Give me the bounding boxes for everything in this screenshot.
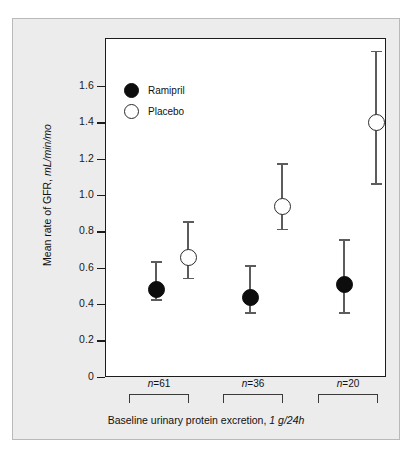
y-axis-tick-label: 0.8 [79,224,94,236]
error-bar-cap-upper [151,261,162,263]
y-axis-tick-label: 0 [88,370,94,382]
y-axis-tick-mark [97,304,105,305]
y-axis-tick-mark [97,86,105,87]
y-axis-title-main: Mean rate of GFR, [41,179,53,266]
legend-item-placebo: Placebo [124,102,185,120]
open-circle-icon [124,104,139,119]
x-axis-group-bracket [223,394,283,403]
y-axis-tick-mark [97,231,105,232]
filled-circle-icon [336,276,353,293]
error-bar-cap-lower [151,299,162,301]
x-axis-group-label-value: =36 [247,378,264,389]
legend-item-ramipril: Ramipril [124,81,185,99]
filled-circle-icon [148,281,165,298]
x-axis-group-label: n=36 [223,378,283,389]
y-axis-tick-mark [97,195,105,196]
error-bar-cap-upper [371,51,382,53]
error-bar-cap-lower [245,312,256,314]
error-bar-cap-upper [183,221,194,223]
legend-label-placebo: Placebo [148,106,184,117]
plot-area: Ramipril Placebo [105,38,386,377]
open-circle-icon [274,198,291,215]
legend: Ramipril Placebo [124,81,185,123]
open-circle-icon [368,114,385,131]
y-axis-tick-label: 1.0 [79,188,94,200]
x-axis-group-label-value: =61 [153,378,170,389]
y-axis-tick-mark [97,122,105,123]
y-axis-tick-mark [97,159,105,160]
x-axis-caption-main: Baseline urinary protein excretion, [108,414,267,426]
x-axis-group-label-value: =20 [342,378,359,389]
x-axis-group-bracket [129,394,189,403]
error-bar-cap-upper [339,239,350,241]
y-axis-tick-mark [97,268,105,269]
y-axis-tick-label: 0.2 [79,333,94,345]
y-axis-tick-label: 1.2 [79,152,94,164]
x-axis-caption-units: 1 g/24h [269,414,304,426]
y-axis-tick-label: 1.6 [79,79,94,91]
error-bar-cap-upper [245,265,256,267]
x-axis-group-bracket [318,394,378,403]
x-axis-group-label: n=20 [318,378,378,389]
x-axis-group-2: n=36 [223,378,283,410]
x-axis-caption: Baseline urinary protein excretion, 1 g/… [13,414,399,426]
error-bar-cap-lower [371,183,382,185]
filled-circle-icon [242,289,259,306]
figure-panel: 1.61.41.21.00.80.60.40.20 Mean rate of G… [12,18,400,440]
y-axis-tick-mark [97,340,105,341]
x-axis-group-3: n=20 [318,378,378,410]
y-axis-title: Mean rate of GFR, mL/min/mo [41,65,53,325]
x-axis-group-1: n=61 [129,378,189,410]
filled-circle-icon [124,83,139,98]
error-bar-cap-lower [277,229,288,231]
error-bar-cap-upper [277,163,288,165]
error-bar [281,163,283,228]
y-axis-tick-label: 1.4 [79,115,94,127]
error-bar-cap-lower [183,278,194,280]
y-axis-tick-label: 0.4 [79,297,94,309]
error-bar-cap-lower [339,312,350,314]
plot-inner: Ramipril Placebo [106,39,385,376]
open-circle-icon [180,249,197,266]
y-axis-tick-label: 0.6 [79,261,94,273]
legend-label-ramipril: Ramipril [148,85,185,96]
y-axis-title-units: mL/min/mo [41,124,53,176]
x-axis-group-label: n=61 [129,378,189,389]
y-axis-tick-mark [97,377,105,378]
